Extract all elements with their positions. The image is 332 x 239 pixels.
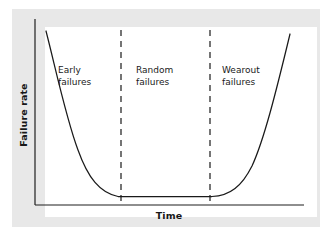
x-axis-title: Time	[33, 209, 305, 222]
region-label-wearout-line1: Wearout	[222, 65, 260, 77]
failure-rate-curve	[46, 31, 290, 197]
region-label-wearout-failures: Wearout failures	[222, 65, 260, 88]
region-label-random-line1: Random	[136, 65, 173, 77]
region-label-random-line2: failures	[136, 77, 173, 89]
y-axis-title: Failure rate	[17, 55, 31, 175]
chart-drawing	[0, 0, 332, 239]
region-label-wearout-line2: failures	[222, 77, 260, 89]
region-label-early-failures: Early failures	[58, 65, 91, 88]
region-label-early-line2: failures	[58, 77, 91, 89]
region-label-random-failures: Random failures	[136, 65, 173, 88]
region-label-early-line1: Early	[58, 65, 91, 77]
